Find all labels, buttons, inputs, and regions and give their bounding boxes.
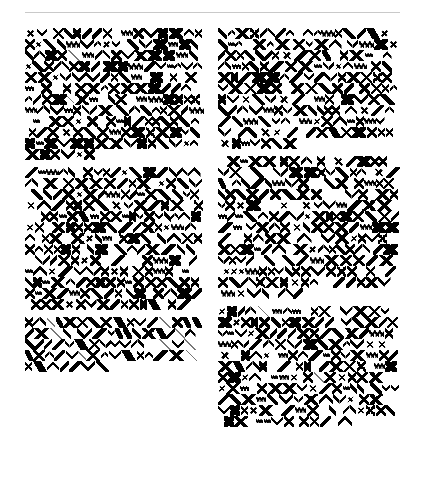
back-slash-glyph — [133, 222, 141, 233]
back-slash-glyph — [117, 178, 128, 189]
chevron-up-glyph — [37, 200, 51, 211]
diamond-glyph — [63, 178, 74, 189]
cross-glyph — [170, 116, 178, 127]
chevron-up-glyph — [280, 72, 289, 83]
chevron-down-glyph — [181, 61, 193, 72]
hollow-box-glyph — [248, 405, 259, 416]
cross-glyph — [94, 138, 109, 149]
cross-glyph — [272, 50, 279, 61]
zigzag-glyph — [221, 288, 235, 299]
heavy-cross-glyph — [118, 61, 128, 72]
cross-glyph — [270, 189, 281, 200]
chevron-down-glyph — [80, 39, 94, 50]
cross-glyph — [256, 277, 265, 288]
back-slash-glyph — [308, 350, 323, 361]
glyph-line — [218, 244, 400, 255]
glyph-line — [218, 61, 400, 72]
cross-glyph — [359, 394, 369, 405]
cross-glyph — [172, 317, 183, 328]
glyph-line — [218, 372, 400, 383]
chevron-up-glyph — [95, 50, 110, 61]
chevron-up-glyph — [297, 233, 312, 244]
cross-glyph — [42, 233, 49, 244]
glyph-line — [218, 28, 400, 39]
zigzag-glyph — [116, 116, 124, 127]
forward-slash-glyph — [178, 116, 190, 127]
heavy-cross-glyph — [95, 244, 108, 255]
cross-glyph — [62, 189, 75, 200]
chevron-down-glyph — [340, 306, 353, 317]
zigzag-glyph — [343, 383, 350, 394]
glyph-line — [25, 255, 205, 266]
glyph-line — [218, 211, 400, 222]
back-slash-glyph — [319, 383, 332, 394]
diamond-glyph — [89, 178, 103, 189]
heavy-cross-glyph — [143, 167, 156, 178]
forward-slash-glyph — [352, 317, 364, 328]
chevron-down-glyph — [86, 72, 100, 83]
glyph-line — [218, 105, 400, 116]
cross-glyph — [44, 61, 54, 72]
forward-slash-glyph — [129, 167, 142, 178]
chevron-up-glyph — [272, 244, 286, 255]
cross-glyph — [259, 317, 270, 328]
heavy-cross-glyph — [70, 138, 84, 149]
zigzag-glyph — [292, 306, 301, 317]
chevron-up-glyph — [178, 211, 190, 222]
diamond-glyph — [42, 94, 52, 105]
cross-glyph — [283, 138, 297, 149]
zigzag-glyph — [25, 266, 33, 277]
heavy-bar-glyph — [192, 317, 202, 328]
cross-glyph — [274, 105, 283, 116]
hairline-glyph — [158, 339, 172, 350]
cross-glyph — [328, 339, 343, 350]
back-slash-glyph — [92, 28, 102, 39]
cross-glyph — [375, 189, 390, 200]
chevron-down-glyph — [236, 255, 246, 266]
forward-slash-glyph — [106, 222, 117, 233]
hollow-box-glyph — [334, 62, 343, 71]
cross-glyph — [335, 178, 348, 189]
back-slash-glyph — [288, 328, 296, 339]
zigzag-glyph — [171, 222, 184, 233]
heavy-cross-glyph — [383, 244, 398, 255]
chevron-down-glyph — [136, 211, 143, 222]
chevron-down-glyph — [58, 138, 70, 149]
cross-glyph — [133, 277, 144, 288]
hollow-box-glyph — [84, 233, 94, 243]
cross-glyph — [335, 28, 342, 39]
back-slash-glyph — [319, 328, 332, 339]
forward-slash-glyph — [116, 105, 129, 116]
chevron-up-glyph — [237, 105, 248, 116]
cross-glyph — [324, 372, 336, 383]
zigzag-glyph — [218, 211, 227, 222]
column-left — [25, 28, 205, 372]
glyph-block-5 — [218, 156, 400, 299]
heavy-bar-glyph — [322, 50, 331, 61]
chevron-up-glyph — [188, 167, 201, 178]
chevron-down-glyph — [172, 339, 184, 350]
forward-slash-glyph — [83, 127, 96, 138]
diamond-glyph — [347, 266, 357, 277]
cross-glyph — [317, 167, 326, 178]
chevron-up-glyph — [355, 244, 370, 255]
cross-glyph — [228, 83, 243, 94]
cross-glyph — [296, 189, 310, 200]
diamond-glyph — [25, 244, 35, 255]
cross-glyph — [117, 277, 125, 288]
heavy-cross-glyph — [267, 72, 280, 83]
cross-glyph — [335, 233, 349, 244]
forward-slash-glyph — [132, 328, 141, 339]
glyph-line — [25, 50, 205, 61]
cross-glyph — [314, 39, 329, 50]
diamond-glyph — [288, 156, 300, 167]
back-slash-glyph — [349, 222, 359, 233]
cross-glyph — [298, 61, 313, 72]
diamond-glyph — [226, 383, 240, 394]
back-slash-glyph — [371, 105, 384, 116]
diamond-glyph — [349, 50, 364, 61]
forward-slash-glyph — [244, 50, 255, 61]
back-slash-glyph — [177, 299, 191, 310]
chevron-down-glyph — [72, 72, 86, 83]
heavy-cross-glyph — [251, 317, 258, 328]
